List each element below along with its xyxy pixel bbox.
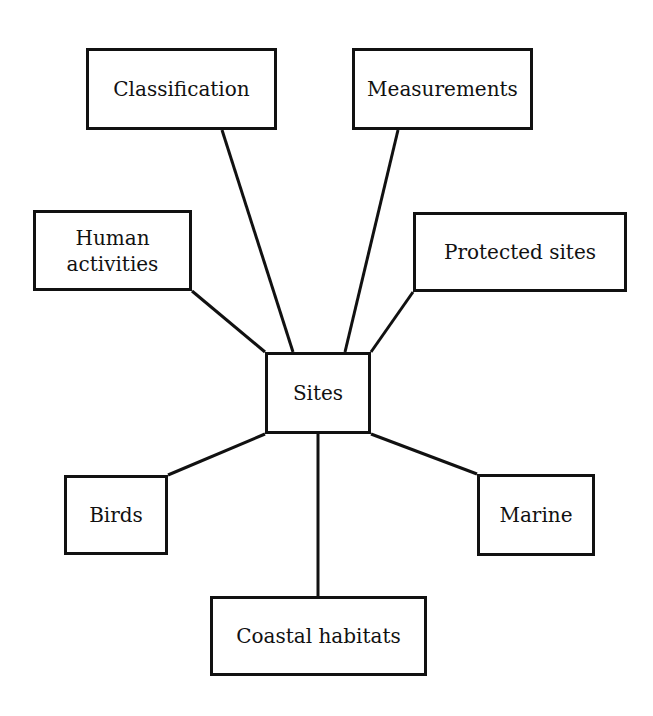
node-protected-sites: Protected sites	[413, 212, 627, 292]
hub-diagram: Sites Classification Measurements Human …	[0, 0, 653, 716]
node-birds: Birds	[64, 475, 168, 555]
node-center-sites: Sites	[265, 352, 371, 434]
node-human-activities: Human activities	[33, 210, 192, 291]
edge-sites-marine	[371, 434, 477, 474]
edge-sites-protected-sites	[371, 292, 413, 352]
edge-sites-human-activities	[192, 291, 265, 352]
node-classification: Classification	[86, 48, 277, 130]
edge-sites-measurements	[345, 130, 398, 352]
node-measurements: Measurements	[352, 48, 533, 130]
node-coastal-habitats: Coastal habitats	[210, 596, 427, 676]
edge-sites-birds	[168, 434, 265, 475]
edge-sites-classification	[222, 130, 293, 352]
node-marine: Marine	[477, 474, 595, 556]
